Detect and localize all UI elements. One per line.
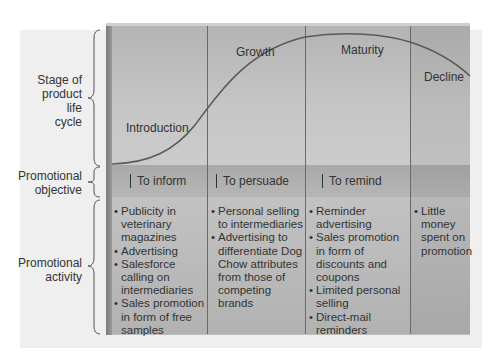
activity-item: Salesforce calling on intermediaries [114,258,208,298]
activity-item: Advertising [114,245,208,258]
row-label-line: Promotional [10,256,82,270]
activity-list-maturity: Reminder advertising Sales promotion in … [309,205,409,337]
stage-label-maturity: Maturity [341,43,384,57]
stage-label-growth: Growth [236,45,275,59]
objective-maturity: To remind [322,174,382,188]
brace-stage [86,28,106,168]
activity-item: Sales promotion in form of free samples [114,297,208,337]
activity-item: Little money spent on promotion [414,205,470,258]
row-label-line: objective [10,183,82,197]
row-label-line: product [20,87,82,101]
stage-label-decline: Decline [424,70,464,84]
row-label-line: life [20,101,82,115]
brace-activity [86,198,106,336]
objective-marker [322,174,323,188]
activity-item: Personal selling to intermediaries [211,205,303,231]
objective-introduction: To inform [130,174,186,188]
row-label-objective: Promotional objective [10,169,82,197]
row-label-line: cycle [20,115,82,129]
objective-marker [130,174,131,188]
brace-objective [86,166,106,198]
row-label-line: activity [10,270,82,284]
objective-text: To inform [137,174,186,188]
row-label-line: Promotional [10,169,82,183]
objective-text: To remind [329,174,382,188]
stage-label-introduction: Introduction [126,121,189,135]
activity-list-growth: Personal selling to intermediaries Adver… [211,205,303,311]
activity-item: Sales promotion in form of discounts and… [309,231,409,284]
objective-text: To persuade [223,174,289,188]
activity-list-decline: Little money spent on promotion [414,205,470,258]
activity-item: Advertising to differentiate Dog Chow at… [211,231,303,310]
objective-marker [216,174,217,188]
row-label-activity: Promotional activity [10,256,82,284]
row-label-stage: Stage of product life cycle [20,73,82,129]
activity-item: Limited personal selling [309,284,409,310]
row-label-line: Stage of [20,73,82,87]
objective-growth: To persuade [216,174,289,188]
activity-item: Reminder advertising [309,205,409,231]
activity-list-introduction: Publicity in veterinary magazines Advert… [114,205,208,337]
activity-item: Direct-mail reminders [309,311,409,337]
activity-item: Publicity in veterinary magazines [114,205,208,245]
